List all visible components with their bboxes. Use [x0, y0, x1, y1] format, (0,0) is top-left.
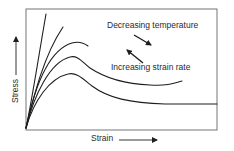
curve-1 [26, 14, 46, 128]
curve-3 [26, 42, 88, 128]
annotation-decreasing-temperature: Decreasing temperature [107, 21, 198, 30]
annotation-increasing-strain-rate: Increasing strain rate [111, 63, 190, 72]
x-axis-label: Strain [91, 134, 113, 143]
temperature-arrow-icon [134, 35, 151, 45]
y-axis-label: Stress [11, 79, 20, 103]
